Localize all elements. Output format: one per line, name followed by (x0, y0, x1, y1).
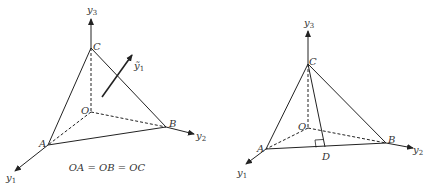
label-A-right: A (256, 143, 264, 154)
edge-CA-right (266, 64, 308, 149)
edge-OA-left (48, 112, 91, 145)
edge-OB-right (308, 128, 386, 143)
edge-AB-left (48, 127, 166, 145)
diagram-canvas: y3 y2 y1 C O A B ỹ1 OA = OB = OC y3 y2 y… (0, 0, 425, 196)
label-D-right: D (321, 151, 330, 162)
left-figure: y3 y2 y1 C O A B ỹ1 OA = OB = OC (5, 4, 206, 185)
label-y3-left: y3 (86, 4, 97, 17)
label-B-left: B (168, 118, 176, 129)
label-O-right: O (298, 121, 306, 132)
label-y2-left: y2 (195, 130, 206, 143)
edge-OB-left (91, 112, 166, 127)
label-C-left: C (93, 41, 101, 52)
label-A-left: A (38, 138, 46, 149)
edge-CA-left (48, 48, 91, 145)
label-y1-left: y1 (5, 172, 16, 185)
label-O-left: O (81, 105, 89, 116)
label-y1-tilde: ỹ1 (133, 60, 144, 73)
label-y2-right: y2 (412, 144, 423, 157)
edge-AB-right (266, 143, 386, 149)
edge-CD-right (308, 64, 325, 147)
label-y1-right: y1 (236, 167, 247, 180)
edge-CB-right (308, 64, 386, 143)
vector-y1-tilde (102, 55, 132, 97)
label-C-right: C (309, 56, 317, 67)
label-B-right: B (387, 134, 395, 145)
equation-OA-OB-OC: OA = OB = OC (69, 162, 146, 173)
label-y3-right: y3 (303, 17, 314, 30)
right-figure: y3 y2 y1 C O A B D (236, 17, 423, 180)
